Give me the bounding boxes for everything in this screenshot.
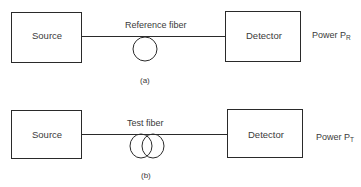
power-subscript-a: R bbox=[346, 34, 351, 41]
caption-b: (b) bbox=[141, 171, 151, 181]
power-subscript-b: T bbox=[350, 136, 354, 143]
power-label-a: Power PR bbox=[312, 30, 351, 41]
caption-a: (a) bbox=[140, 76, 150, 86]
detector-label-b: Detector bbox=[248, 130, 284, 140]
power-text-a: Power P bbox=[312, 30, 346, 40]
reference-fiber-label: Reference fiber bbox=[125, 20, 187, 30]
detector-label-a: Detector bbox=[246, 31, 282, 41]
source-label-b: Source bbox=[32, 130, 62, 140]
test-fiber-label: Test fiber bbox=[127, 118, 164, 128]
power-label-b: Power PT bbox=[316, 132, 354, 143]
source-label-a: Source bbox=[32, 31, 62, 41]
test-fiber-loop-2 bbox=[142, 134, 164, 158]
test-fiber-loop-1 bbox=[130, 134, 152, 158]
reference-fiber-loop bbox=[133, 37, 157, 61]
power-text-b: Power P bbox=[316, 132, 350, 142]
